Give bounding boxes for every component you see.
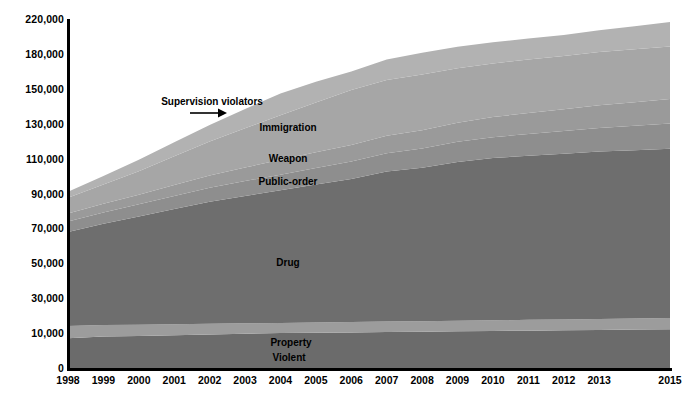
x-axis-tick-label: 2005 — [304, 374, 327, 386]
y-axis-tick-label: 150,000 — [25, 83, 64, 95]
x-axis-tick-label: 2006 — [340, 374, 363, 386]
y-axis-tick-label: 180,000 — [25, 48, 64, 60]
x-axis-tick-label: 2013 — [587, 374, 610, 386]
y-axis-tick-label: 70,000 — [31, 222, 64, 234]
area-series-group — [68, 22, 670, 368]
y-axis-tick-label: 90,000 — [31, 188, 64, 200]
y-axis-tick-label: 0 — [58, 362, 64, 374]
x-axis-tick-label: 1998 — [56, 374, 79, 386]
x-axis-tick-label: 2000 — [127, 374, 150, 386]
x-axis-tick-label: 2015 — [658, 374, 681, 386]
x-axis-tick-label: 2012 — [552, 374, 575, 386]
y-axis-tick-label: 10,000 — [31, 327, 64, 339]
y-axis-tick-labels: 010,00030,00050,00070,00090,000110,00013… — [0, 0, 64, 401]
y-axis-tick-label: 50,000 — [31, 257, 64, 269]
x-axis-tick-label: 2003 — [233, 374, 256, 386]
x-axis-tick-label: 1999 — [92, 374, 115, 386]
x-axis-tick-label: 2004 — [269, 374, 292, 386]
y-axis-tick-label: 130,000 — [25, 118, 64, 130]
x-axis-tick-label: 2001 — [163, 374, 186, 386]
x-axis-tick-label: 2008 — [410, 374, 433, 386]
annotation-supervision-violators: Supervision violators — [161, 96, 263, 107]
x-axis-tick-label: 2009 — [446, 374, 469, 386]
y-axis-tick-label: 220,000 — [25, 13, 64, 25]
x-axis-tick-label: 2007 — [375, 374, 398, 386]
x-axis-tick-label: 2011 — [517, 374, 540, 386]
y-axis-tick-label: 110,000 — [26, 153, 64, 165]
x-axis-tick-label: 2010 — [481, 374, 504, 386]
y-axis-tick-label: 30,000 — [31, 292, 64, 304]
supervision-violators-arrow — [190, 109, 227, 118]
x-axis-tick-label: 2002 — [198, 374, 221, 386]
